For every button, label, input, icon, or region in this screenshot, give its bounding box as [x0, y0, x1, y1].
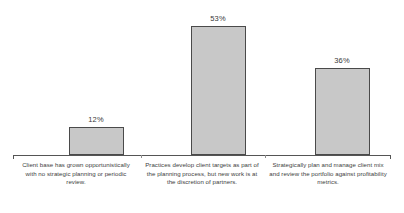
- x-axis-line: [13, 155, 391, 156]
- category-label-2: Practices develop client targets as part…: [139, 161, 265, 187]
- bar-column-1: 12%: [41, 8, 151, 155]
- bar-group-2: 53%: [163, 14, 273, 155]
- bar-chart: 12% 53% 36% Client base has grown opport…: [0, 0, 404, 213]
- bar-value-label-1: 12%: [88, 115, 103, 125]
- category-label-1: Client base has grown opportunistically …: [13, 161, 139, 187]
- category-labels: Client base has grown opportunistically …: [13, 161, 391, 187]
- bar-rect-3[interactable]: [315, 68, 370, 155]
- bar-rect-2[interactable]: [191, 26, 246, 155]
- axis-tick-divider-2: [265, 155, 266, 158]
- bar-value-label-3: 36%: [334, 56, 349, 66]
- plot-area: 12% 53% 36%: [13, 8, 391, 155]
- bar-column-3: 36%: [287, 8, 397, 155]
- axis-tick-start: [13, 155, 14, 159]
- axis-tick-divider-1: [141, 155, 142, 158]
- bar-group-3: 36%: [287, 56, 397, 155]
- bar-rect-1[interactable]: [69, 127, 124, 155]
- bar-group-1: 12%: [41, 115, 151, 155]
- bar-column-2: 53%: [163, 8, 273, 155]
- category-label-3: Strategically plan and manage client mix…: [265, 161, 391, 187]
- axis-tick-end: [390, 155, 391, 159]
- bar-value-label-2: 53%: [210, 14, 225, 24]
